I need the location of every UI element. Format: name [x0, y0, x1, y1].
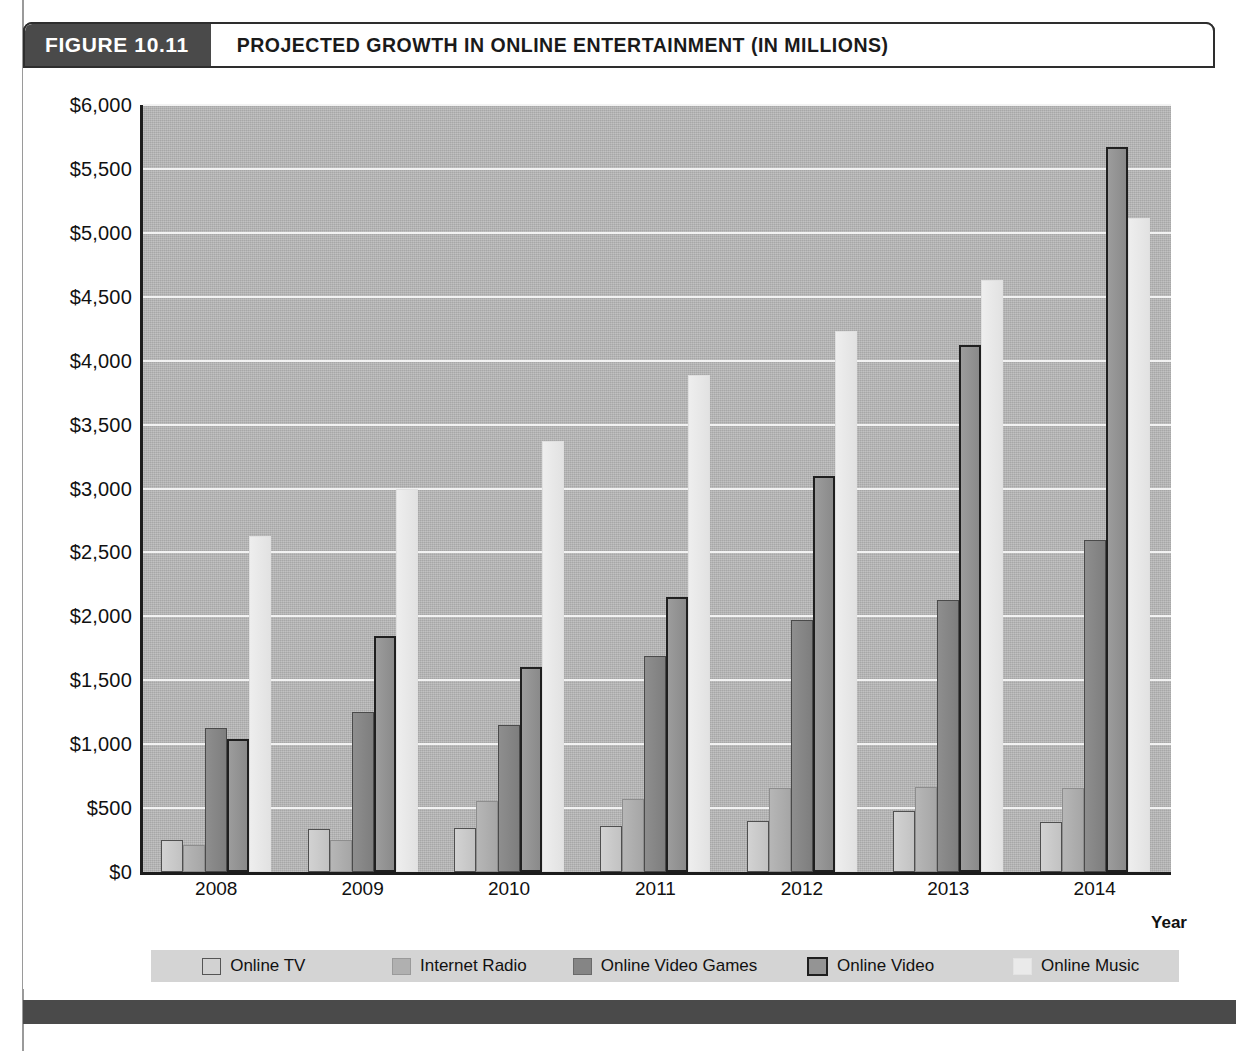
bar-group-2009 [289, 105, 435, 872]
y-axis-tick-label: $3,000 [32, 477, 132, 500]
bar-online-video-2011 [666, 597, 688, 872]
bar-internet-radio-2012 [769, 788, 791, 872]
x-axis-tick-label: 2013 [875, 878, 1021, 908]
bar-group-2014 [1022, 105, 1168, 872]
bar-online-tv-2014 [1040, 822, 1062, 872]
bar-groups [143, 105, 1168, 872]
bar-online-video-2010 [520, 667, 542, 872]
chart-legend: Online TVInternet RadioOnline Video Game… [151, 950, 1179, 982]
bar-internet-radio-2010 [476, 801, 498, 872]
y-axis-tick-label: $3,500 [32, 413, 132, 436]
legend-item-online-tv: Online TV [151, 956, 357, 976]
y-axis-tick-label: $6,000 [32, 94, 132, 117]
bar-online-video-2013 [959, 345, 981, 872]
bar-online-tv-2012 [747, 821, 769, 872]
bar-online-video-2008 [227, 739, 249, 872]
y-axis-tick-label: $4,000 [32, 349, 132, 372]
bar-online-tv-2013 [893, 811, 915, 872]
legend-swatch-icon [1013, 958, 1032, 975]
bar-group-2013 [875, 105, 1021, 872]
x-axis-tick-label: 2011 [582, 878, 728, 908]
chart-area: $6,000$5,500$5,000$4,500$4,000$3,500$3,0… [23, 68, 1215, 989]
plot-wrapper: $6,000$5,500$5,000$4,500$4,000$3,500$3,0… [23, 68, 1215, 989]
y-axis-tick-label: $500 [32, 797, 132, 820]
figure-title: PROJECTED GROWTH IN ONLINE ENTERTAINMENT… [211, 24, 1213, 66]
bar-internet-radio-2008 [183, 845, 205, 872]
bar-online-video-games-2008 [205, 728, 227, 872]
y-axis-tick-label: $0 [32, 861, 132, 884]
x-axis-labels: 2008200920102011201220132014 [143, 878, 1168, 908]
x-axis-tick-label: 2009 [289, 878, 435, 908]
bar-online-music-2011 [688, 375, 710, 872]
legend-label: Online Music [1041, 956, 1139, 976]
x-axis-tick-label: 2010 [436, 878, 582, 908]
x-axis-title: Year [1151, 913, 1187, 933]
bar-internet-radio-2014 [1062, 788, 1084, 872]
bar-group-2012 [729, 105, 875, 872]
bar-online-video-2014 [1106, 147, 1128, 872]
bar-internet-radio-2011 [622, 799, 644, 873]
bar-online-video-2009 [374, 636, 396, 872]
bar-online-tv-2009 [308, 829, 330, 872]
bar-group-2011 [582, 105, 728, 872]
y-axis-tick-label: $4,500 [32, 285, 132, 308]
bar-online-music-2009 [396, 489, 418, 873]
y-axis-tick-label: $2,500 [32, 541, 132, 564]
legend-swatch-icon [573, 958, 592, 975]
figure-header: FIGURE 10.11 PROJECTED GROWTH IN ONLINE … [23, 22, 1215, 68]
legend-item-internet-radio: Internet Radio [357, 956, 563, 976]
legend-item-online-music: Online Music [973, 956, 1179, 976]
legend-label: Online TV [230, 956, 305, 976]
legend-label: Internet Radio [420, 956, 527, 976]
bar-online-video-games-2012 [791, 620, 813, 872]
footer-bar [23, 1000, 1236, 1024]
y-axis-tick-label: $5,500 [32, 157, 132, 180]
bar-online-music-2013 [981, 280, 1003, 872]
legend-label: Online Video Games [601, 956, 758, 976]
legend-item-online-video-games: Online Video Games [562, 956, 768, 976]
legend-swatch-icon [392, 958, 411, 975]
bar-internet-radio-2009 [330, 840, 352, 872]
bar-online-video-2012 [813, 476, 835, 872]
x-axis-tick-label: 2008 [143, 878, 289, 908]
figure-root: FIGURE 10.11 PROJECTED GROWTH IN ONLINE … [0, 0, 1237, 1051]
bar-online-video-games-2010 [498, 725, 520, 872]
x-axis-tick-label: 2012 [729, 878, 875, 908]
y-axis-labels: $6,000$5,500$5,000$4,500$4,000$3,500$3,0… [28, 105, 132, 872]
bar-online-video-games-2013 [937, 600, 959, 872]
bar-online-music-2008 [249, 536, 271, 872]
x-axis-tick-label: 2014 [1022, 878, 1168, 908]
bar-online-video-games-2011 [644, 656, 666, 872]
legend-swatch-icon [202, 958, 221, 975]
legend-label: Online Video [837, 956, 934, 976]
bar-group-2010 [436, 105, 582, 872]
y-axis-tick-label: $2,000 [32, 605, 132, 628]
legend-swatch-icon [807, 957, 828, 976]
figure-number: FIGURE 10.11 [25, 24, 211, 66]
legend-item-online-video: Online Video [768, 956, 974, 976]
bar-online-music-2010 [542, 441, 564, 872]
bar-online-tv-2011 [600, 826, 622, 872]
bar-online-tv-2008 [161, 840, 183, 872]
y-axis-tick-label: $1,000 [32, 733, 132, 756]
bar-online-tv-2010 [454, 828, 476, 872]
bar-internet-radio-2013 [915, 787, 937, 872]
y-axis-tick-label: $5,000 [32, 221, 132, 244]
y-axis-tick-label: $1,500 [32, 669, 132, 692]
bar-online-video-games-2009 [352, 712, 374, 872]
bar-group-2008 [143, 105, 289, 872]
bar-online-video-games-2014 [1084, 540, 1106, 872]
bar-online-music-2012 [835, 331, 857, 872]
bar-online-music-2014 [1128, 218, 1150, 873]
